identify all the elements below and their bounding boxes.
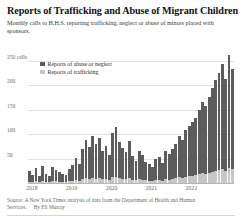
y-axis-tick-label: 150: [7, 103, 15, 109]
y-axis-tick-label: 200: [7, 78, 15, 84]
legend-label-abuse: Reports of abuse or neglect: [48, 61, 112, 67]
legend-label-trafficking: Reports of trafficking: [48, 69, 99, 75]
y-axis-tick-label: 100: [7, 127, 15, 133]
page-title: Reports of Trafficking and Abuse of Migr…: [7, 5, 233, 17]
legend-swatch-icon-abuse: [40, 62, 45, 67]
chart-footer: Source: A New York Times analysis of dat…: [7, 197, 229, 211]
bar-segment-trafficking: [231, 169, 234, 183]
x-axis-tick-label: 2022: [185, 185, 197, 191]
chart-header: Reports of Trafficking and Abuse of Migr…: [7, 5, 233, 35]
x-axis-tick-label: 2018: [26, 185, 38, 191]
chart-legend: Reports of abuse or neglect Reports of t…: [40, 60, 112, 76]
x-axis-tick-label: 2021: [146, 185, 158, 191]
legend-item-trafficking: Reports of trafficking: [40, 68, 112, 76]
x-axis-tick-label: 2020: [106, 185, 118, 191]
chart-figure: Reports of Trafficking and Abuse of Migr…: [0, 0, 242, 221]
source-note: Source: A New York Times analysis of dat…: [7, 197, 229, 211]
legend-item-abuse: Reports of abuse or neglect: [40, 60, 112, 68]
y-axis-tick-label: 50: [7, 152, 13, 158]
x-axis-tick-label: 2019: [66, 185, 78, 191]
axis-baseline: [28, 183, 234, 184]
byline-text: By Eli Murray: [34, 204, 65, 210]
chart-subtitle: Monthly calls to H.H.S. reporting traffi…: [7, 20, 215, 35]
x-axis-labels: 20182019202020212022: [28, 185, 234, 195]
y-axis-tick-label: 250 calls: [7, 54, 27, 60]
bar-column: [231, 69, 234, 183]
legend-swatch-icon-trafficking: [40, 70, 45, 75]
bar-segment-abuse: [231, 69, 234, 169]
footer-divider: [7, 215, 235, 216]
